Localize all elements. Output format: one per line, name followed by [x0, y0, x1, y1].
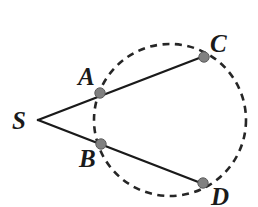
point-label-c: C	[210, 30, 227, 57]
point-dot-a	[95, 88, 105, 98]
geometry-diagram: S A B C D	[0, 0, 258, 207]
secant-line-s-d	[38, 120, 206, 185]
dashed-circle	[94, 44, 246, 196]
point-dot-b	[96, 139, 106, 149]
point-dot-c	[199, 52, 209, 62]
point-label-b: B	[78, 145, 96, 172]
geometry-svg: S A B C D	[0, 0, 258, 207]
point-label-a: A	[76, 63, 95, 90]
point-dot-d	[198, 178, 208, 188]
point-label-s: S	[12, 107, 26, 134]
point-label-d: D	[210, 183, 229, 207]
secant-line-s-c	[38, 55, 207, 120]
